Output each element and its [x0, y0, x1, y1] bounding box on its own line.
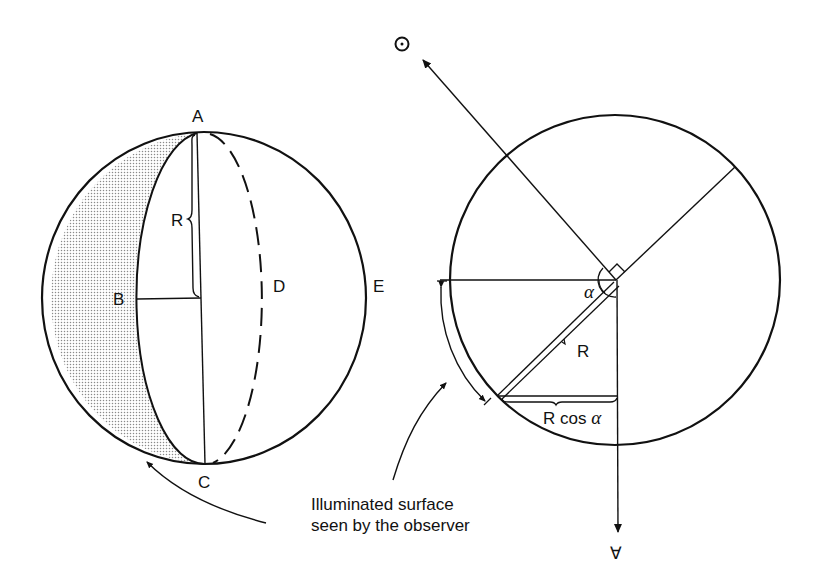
- phase-diagram: R A B C D E α R: [0, 0, 816, 587]
- pointer-arrow-left: [147, 462, 266, 523]
- radius-R-line-parallel: [502, 286, 619, 399]
- pointer-line-caption: [393, 383, 446, 480]
- arc-tick-bottom: [484, 398, 491, 405]
- right-angle-marker: [609, 264, 625, 272]
- observer-direction-line: [617, 280, 618, 532]
- terminator-back-dashed: [210, 134, 262, 463]
- label-Rcos: R cos α: [543, 407, 602, 428]
- label-R-right: R: [577, 342, 589, 361]
- label-C: C: [198, 473, 210, 492]
- Rcos-brace: [502, 398, 617, 405]
- sun-icon: [396, 38, 409, 51]
- caption-line-2: seen by the observer: [311, 516, 470, 535]
- label-A: A: [192, 107, 204, 126]
- sun-direction-line: [423, 60, 616, 280]
- label-D: D: [273, 277, 285, 296]
- caption: Illuminated surface seen by the observer: [311, 495, 470, 535]
- observer-icon: ∀: [610, 544, 622, 563]
- terminator-line: [616, 167, 735, 280]
- label-alpha: α: [584, 281, 595, 302]
- caption-line-1: Illuminated surface: [311, 495, 454, 514]
- label-E: E: [373, 277, 384, 296]
- label-R-left: R: [171, 211, 183, 230]
- radius-R-line: [497, 282, 614, 396]
- label-B: B: [113, 290, 124, 309]
- right-circle: α R R cos α ∀: [396, 38, 781, 564]
- radius-B: [137, 298, 201, 299]
- left-sphere: R A B C D E: [42, 107, 384, 492]
